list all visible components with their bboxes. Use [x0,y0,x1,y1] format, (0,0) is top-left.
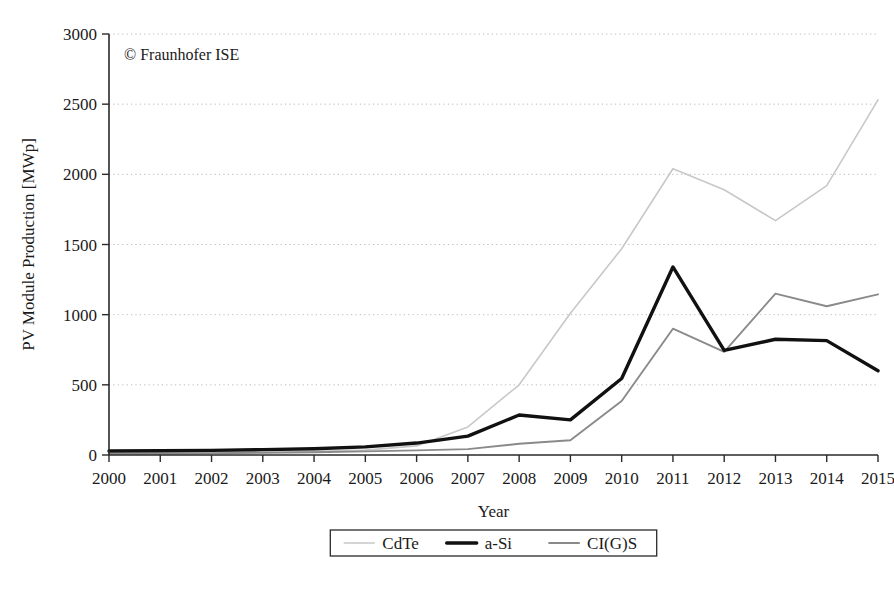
legend-label-a-si: a-Si [485,534,513,553]
y-tick-label: 2500 [63,95,97,114]
x-tick-label: 2010 [605,469,639,488]
legend-label-cigs: CI(G)S [587,534,637,553]
chart-legend: CdTea-SiCI(G)S [330,530,656,556]
series-line-a-si [109,267,878,451]
y-tick-label: 0 [89,446,98,465]
series-line-cigs [109,294,878,454]
x-tick-label: 2003 [246,469,280,488]
gridlines-group [109,34,878,385]
x-tick-label: 2004 [297,469,332,488]
x-tick-label: 2013 [758,469,792,488]
y-axis-title: PV Module Production [MWp] [19,138,38,351]
copyright-credit: © Fraunhofer ISE [124,46,239,63]
legend-label-cdte: CdTe [382,534,419,553]
series-line-cdte [109,100,878,454]
y-tick-label: 1000 [63,306,97,325]
x-tick-label: 2002 [195,469,229,488]
x-tick-label: 2011 [656,469,689,488]
x-tick-label: 2000 [92,469,126,488]
pv-module-production-chart: 050010001500200025003000 200020012002200… [0,0,894,589]
x-tick-label: 2005 [348,469,382,488]
x-tick-label: 2006 [400,469,434,488]
x-axis-ticks: 2000200120022003200420052006200720082009… [92,455,894,488]
chart-canvas: 050010001500200025003000 200020012002200… [0,0,894,589]
legend-items: CdTea-SiCI(G)S [344,534,637,553]
x-tick-label: 2012 [707,469,741,488]
x-tick-label: 2009 [553,469,587,488]
y-axis-ticks: 050010001500200025003000 [63,25,109,465]
series-group [109,100,878,454]
x-tick-label: 2001 [143,469,177,488]
y-tick-label: 1500 [63,236,97,255]
x-tick-label: 2007 [451,469,486,488]
y-tick-label: 500 [72,376,98,395]
x-tick-label: 2014 [810,469,845,488]
x-axis-title: Year [478,502,510,521]
x-tick-label: 2015 [861,469,894,488]
x-tick-label: 2008 [502,469,536,488]
y-tick-label: 2000 [63,165,97,184]
y-tick-label: 3000 [63,25,97,44]
